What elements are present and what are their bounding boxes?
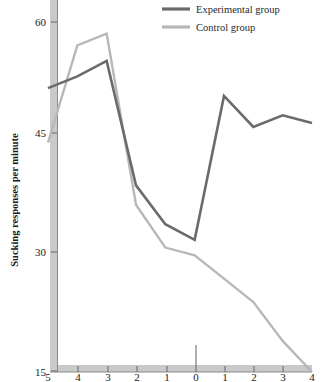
series-line-control — [48, 34, 312, 372]
y-axis-title: Sucking responses per minute — [9, 133, 20, 267]
x-tick-label: 2 — [134, 371, 140, 382]
legend: Experimental group Control group — [162, 4, 280, 33]
y-tick-label: 45 — [35, 127, 47, 139]
x-tick-label: 3 — [280, 371, 286, 382]
x-tick-labels: 5 4 3 2 1 0 1 2 3 4 — [45, 371, 315, 382]
x-tick-label: 5 — [45, 371, 51, 382]
y-tick-label: 30 — [35, 246, 47, 258]
x-tick-label: 1 — [164, 371, 170, 382]
chart-container: 60 45 30 15 5 4 3 2 1 0 1 2 3 4 Sucking … — [0, 0, 322, 382]
legend-label-control: Control group — [196, 22, 255, 33]
x-tick-label: 2 — [251, 371, 257, 382]
x-tick-label: 4 — [309, 371, 315, 382]
x-tick-label: 0 — [193, 371, 199, 382]
y-axis-band — [50, 0, 57, 372]
y-tick-labels: 60 45 30 15 — [35, 16, 47, 378]
series-group — [48, 34, 312, 372]
x-tick-label: 4 — [75, 371, 81, 382]
x-tick-label: 3 — [105, 371, 111, 382]
x-axis-band — [50, 365, 312, 372]
line-chart: 60 45 30 15 5 4 3 2 1 0 1 2 3 4 Sucking … — [0, 0, 322, 382]
x-tick-label: 1 — [222, 371, 228, 382]
legend-label-experimental: Experimental group — [196, 4, 280, 15]
series-line-experimental — [48, 61, 312, 240]
y-tick-label: 60 — [35, 16, 47, 28]
